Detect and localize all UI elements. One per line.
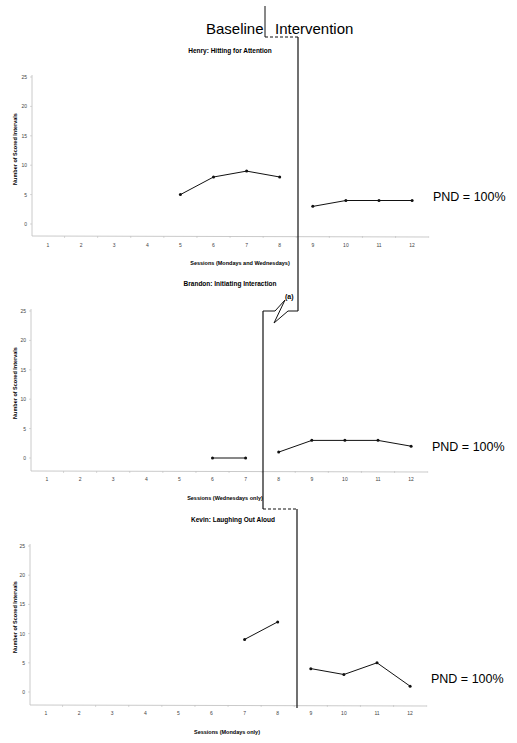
data-point <box>244 457 247 460</box>
y-tick-label: 0 <box>23 455 26 461</box>
x-tick-label: 4 <box>145 476 148 482</box>
data-point <box>212 175 215 178</box>
y-tick-label: 15 <box>20 367 26 373</box>
pnd-annotation-brandon: PND = 100% <box>432 440 505 454</box>
y-tick-label: 15 <box>21 133 27 139</box>
x-tick-label: 7 <box>245 242 248 248</box>
x-tick-label: 12 <box>408 476 414 482</box>
y-tick-label: 25 <box>19 543 25 549</box>
x-tick-label: 7 <box>243 710 246 716</box>
chart-canvas: 0510152025123456789101112051015202512345… <box>0 0 517 743</box>
data-point <box>342 673 345 676</box>
x-tick-label: 3 <box>113 242 116 248</box>
x-axis-label-brandon: Sessions (Wednesdays only) <box>125 495 325 501</box>
y-tick-label: 5 <box>23 426 26 432</box>
x-tick-label: 2 <box>80 242 83 248</box>
data-line-intervention <box>311 663 410 686</box>
x-tick-label: 5 <box>177 710 180 716</box>
data-point <box>245 170 248 173</box>
x-tick-label: 6 <box>211 476 214 482</box>
x-tick-label: 8 <box>277 476 280 482</box>
x-tick-label: 6 <box>212 242 215 248</box>
y-tick-label: 20 <box>20 337 26 343</box>
x-tick-label: 10 <box>343 242 349 248</box>
break-note-a: (a) <box>285 293 294 300</box>
y-tick-label: 20 <box>21 103 27 109</box>
y-tick-label: 5 <box>22 660 25 666</box>
data-point <box>310 439 313 442</box>
data-point <box>344 199 347 202</box>
y-tick-label: 15 <box>19 601 25 607</box>
data-point <box>409 685 412 688</box>
x-tick-label: 1 <box>47 242 50 248</box>
x-tick-label: 6 <box>210 710 213 716</box>
x-tick-label: 11 <box>376 242 381 248</box>
x-tick-label: 10 <box>342 476 348 482</box>
x-tick-label: 4 <box>146 242 149 248</box>
x-tick-label: 9 <box>311 242 314 248</box>
data-point <box>277 451 280 454</box>
x-tick-label: 5 <box>179 242 182 248</box>
pnd-annotation-kevin: PND = 100% <box>431 672 504 686</box>
data-line-intervention <box>313 201 412 207</box>
pnd-annotation-henry: PND = 100% <box>433 190 506 204</box>
intervention-phase-label: Intervention <box>275 20 353 37</box>
panel-title-henry: Henry: Hitting for Attention <box>130 47 330 54</box>
y-tick-label: 20 <box>19 572 25 578</box>
x-tick-label: 10 <box>341 710 347 716</box>
x-tick-label: 2 <box>79 476 82 482</box>
x-tick-label: 7 <box>244 476 247 482</box>
data-line-intervention <box>279 440 411 452</box>
data-point <box>343 439 346 442</box>
x-tick-label: 5 <box>178 476 181 482</box>
data-point <box>243 638 246 641</box>
data-point <box>411 199 414 202</box>
data-line-baseline <box>245 622 278 640</box>
data-line-baseline <box>180 171 279 195</box>
data-point <box>378 199 381 202</box>
baseline-phase-label: Baseline <box>206 20 264 37</box>
y-tick-label: 0 <box>22 689 25 695</box>
multiple-baseline-figure: 0510152025123456789101112051015202512345… <box>0 0 517 743</box>
x-tick-label: 12 <box>409 242 415 248</box>
x-tick-label: 9 <box>310 476 313 482</box>
data-point <box>309 667 312 670</box>
panel-title-brandon: Brandon: Initiating Interaction <box>130 280 330 287</box>
x-tick-label: 2 <box>78 710 81 716</box>
data-point <box>410 445 413 448</box>
x-tick-label: 9 <box>309 710 312 716</box>
y-tick-label: 10 <box>20 396 26 402</box>
break-zigzag <box>263 300 298 323</box>
x-tick-label: 4 <box>144 710 147 716</box>
y-tick-label: 25 <box>20 308 26 314</box>
y-axis-label-henry: Number of Scored Intervals <box>12 99 18 199</box>
y-tick-label: 25 <box>21 74 27 80</box>
x-axis-label-kevin: Sessions (Mondays only) <box>127 729 327 735</box>
data-point <box>311 205 314 208</box>
x-tick-label: 1 <box>45 710 48 716</box>
x-tick-label: 1 <box>46 476 49 482</box>
data-point <box>377 439 380 442</box>
y-axis-label-kevin: Number of Scored Intervals <box>12 567 18 667</box>
x-tick-label: 3 <box>112 476 115 482</box>
data-point <box>278 175 281 178</box>
data-point <box>376 661 379 664</box>
y-tick-label: 0 <box>24 221 27 227</box>
x-tick-label: 3 <box>111 710 114 716</box>
panel-title-kevin: Kevin: Laughing Out Aloud <box>133 516 333 523</box>
x-tick-label: 12 <box>407 710 413 716</box>
y-axis-label-brandon: Number of Scored Intervals <box>12 333 18 433</box>
y-tick-label: 10 <box>19 631 25 637</box>
x-tick-label: 8 <box>278 242 281 248</box>
data-point <box>276 620 279 623</box>
x-axis-label-henry: Sessions (Mondays and Wednesdays) <box>140 260 340 266</box>
x-tick-label: 11 <box>375 476 380 482</box>
x-tick-label: 11 <box>374 710 379 716</box>
x-tick-label: 8 <box>276 710 279 716</box>
data-point <box>211 457 214 460</box>
data-point <box>179 193 182 196</box>
y-tick-label: 10 <box>21 162 27 168</box>
y-tick-label: 5 <box>24 192 27 198</box>
